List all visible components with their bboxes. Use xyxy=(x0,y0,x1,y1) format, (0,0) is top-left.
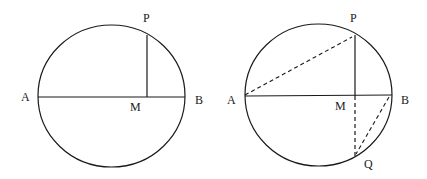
right-segment-AP-dashed xyxy=(245,37,352,95)
right-segment-BQ-dashed xyxy=(356,97,389,154)
right-label-B: B xyxy=(401,93,409,107)
right-diagram: P A M B Q xyxy=(227,11,409,171)
right-diameter-AB xyxy=(245,95,392,96)
left-label-M: M xyxy=(130,100,141,114)
figure-canvas: P A M B P A M B Q xyxy=(0,0,427,179)
left-label-P: P xyxy=(143,11,150,25)
left-circle xyxy=(38,25,185,167)
left-label-B: B xyxy=(195,93,203,107)
geometry-figure: P A M B P A M B Q xyxy=(0,0,427,179)
right-label-Q: Q xyxy=(364,157,373,171)
left-diagram: P A M B xyxy=(21,11,203,167)
right-label-P: P xyxy=(350,11,357,25)
right-label-M: M xyxy=(335,99,346,113)
right-label-A: A xyxy=(227,93,236,107)
left-label-A: A xyxy=(21,90,30,104)
